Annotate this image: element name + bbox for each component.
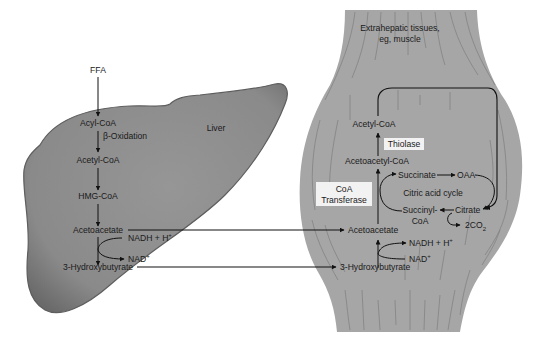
- citric-acid-cycle-label: Citric acid cycle: [403, 188, 463, 198]
- succinyl-coa-line2: CoA: [412, 216, 429, 226]
- hmg-coa-label: HMG-CoA: [78, 191, 118, 201]
- liver-shape: [24, 84, 288, 313]
- liver-acetyl-coa: Acetyl-CoA: [77, 155, 120, 165]
- liver-acyl-coa: Acyl-CoA: [80, 118, 116, 128]
- beta-oxidation-label: β-Oxidation: [103, 131, 147, 141]
- citrate-label: Citrate: [455, 205, 481, 215]
- ffa-label: FFA: [90, 65, 106, 75]
- muscle-organ-label-line1: Extrahepatic tissues,: [360, 23, 439, 33]
- liver-organ-label: Liver: [207, 123, 226, 133]
- succinate-label: Succinate: [398, 170, 436, 180]
- muscle-acetoacetate: Acetoacetate: [348, 225, 398, 235]
- liver-acetoacetate: Acetoacetate: [73, 225, 123, 235]
- oaa-label: OAA: [457, 170, 475, 180]
- liver-3-hydroxybutyrate: 3-Hydroxybutyrate: [63, 262, 133, 272]
- succinyl-coa-line1: Succinyl-: [403, 205, 438, 215]
- ketone-body-diagram: FFA Acyl-CoA β-Oxidation Acetyl-CoA HMG-…: [0, 0, 533, 345]
- muscle-3-hydroxybutyrate: 3-Hydroxybutyrate: [340, 262, 410, 272]
- muscle-nadh-label: NADH + H+: [409, 237, 453, 248]
- coa-transferase-line1: CoA: [336, 184, 353, 194]
- thiolase-label: Thiolase: [388, 139, 421, 149]
- muscle-acetyl-coa: Acetyl-CoA: [353, 119, 396, 129]
- acetoacetyl-coa-label: Acetoacetyl-CoA: [345, 156, 409, 166]
- coa-transferase-line2: Transferase: [321, 195, 367, 205]
- muscle-organ-label-line2: eg, muscle: [379, 34, 421, 44]
- liver-nadh-label: NADH + H+: [128, 232, 172, 243]
